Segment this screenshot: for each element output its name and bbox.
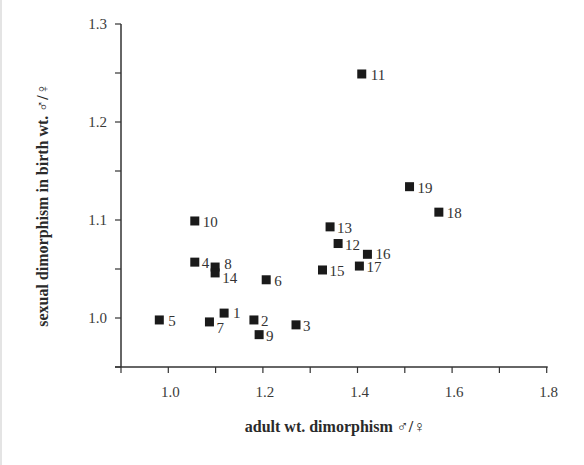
square-marker-icon <box>318 265 327 274</box>
data-point-3: 3 <box>292 318 311 334</box>
point-label: 10 <box>203 214 218 230</box>
x-tick-label: 1.2 <box>256 384 275 400</box>
square-marker-icon <box>255 330 264 339</box>
data-point-5: 5 <box>155 313 176 329</box>
square-marker-icon <box>249 315 258 324</box>
data-point-9: 9 <box>255 328 274 344</box>
point-label: 12 <box>345 237 360 253</box>
point-label: 5 <box>168 313 176 329</box>
data-point-17: 17 <box>355 259 382 275</box>
square-marker-icon <box>334 239 343 248</box>
y-tick-label: 1.0 <box>88 310 107 326</box>
scatter-chart: 1.01.11.21.31.01.21.41.61.8 123456789101… <box>0 0 584 465</box>
data-point-7: 7 <box>205 317 225 336</box>
data-point-4: 4 <box>190 255 210 271</box>
point-label: 18 <box>447 205 462 221</box>
square-marker-icon <box>262 275 271 284</box>
square-marker-icon <box>405 182 414 191</box>
point-label: 15 <box>329 263 344 279</box>
square-marker-icon <box>211 268 220 277</box>
square-marker-icon <box>220 309 229 318</box>
x-axis-title: adult wt. dimorphism ♂/♀ <box>245 418 425 436</box>
point-label: 4 <box>202 255 210 271</box>
data-point-12: 12 <box>334 237 361 253</box>
data-point-18: 18 <box>434 205 462 221</box>
square-marker-icon <box>363 250 372 259</box>
square-marker-icon <box>155 315 164 324</box>
square-marker-icon <box>355 262 364 271</box>
square-marker-icon <box>190 216 199 225</box>
data-point-10: 10 <box>190 214 218 230</box>
square-marker-icon <box>434 208 443 217</box>
axes: 1.01.11.21.31.01.21.41.61.8 <box>88 16 558 400</box>
point-label: 13 <box>337 220 352 236</box>
data-point-2: 2 <box>249 313 268 329</box>
point-label: 17 <box>366 259 382 275</box>
point-label: 14 <box>222 270 238 286</box>
y-tick-label: 1.1 <box>88 212 107 228</box>
data-point-1: 1 <box>220 305 241 321</box>
point-label: 1 <box>233 305 241 321</box>
x-tick-label: 1.6 <box>445 384 464 400</box>
data-point-19: 19 <box>405 180 433 196</box>
point-label: 9 <box>266 328 274 344</box>
square-marker-icon <box>326 222 335 231</box>
point-label: 19 <box>418 180 433 196</box>
square-marker-icon <box>357 69 366 78</box>
data-point-15: 15 <box>318 263 345 279</box>
data-point-13: 13 <box>326 220 353 236</box>
y-tick-label: 1.2 <box>88 114 107 130</box>
data-points: 12345678910111213141516171819 <box>155 67 462 344</box>
square-marker-icon <box>292 320 301 329</box>
point-label: 3 <box>303 318 311 334</box>
square-marker-icon <box>190 258 199 267</box>
y-axis-title: sexual dimorphism in birth wt. ♂/♀ <box>34 83 52 327</box>
y-tick-label: 1.3 <box>88 16 107 32</box>
point-label: 2 <box>261 313 269 329</box>
square-marker-icon <box>205 317 214 326</box>
x-tick-label: 1.4 <box>350 384 369 400</box>
data-point-11: 11 <box>357 67 385 83</box>
point-label: 7 <box>216 320 224 336</box>
x-tick-label: 1.8 <box>539 384 558 400</box>
x-tick-label: 1.0 <box>161 384 180 400</box>
data-point-6: 6 <box>262 273 283 289</box>
point-label: 6 <box>274 273 282 289</box>
data-point-14: 14 <box>211 268 238 286</box>
point-label: 11 <box>371 67 385 83</box>
